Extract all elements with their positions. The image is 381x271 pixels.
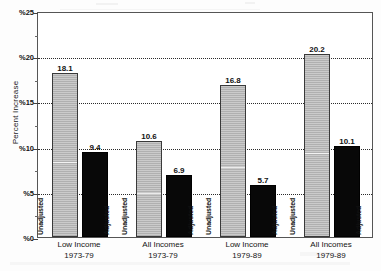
scan-artifact bbox=[96, 3, 118, 5]
bar-caption-adjusted: Adjusted bbox=[271, 206, 278, 235]
y-tick-%5 bbox=[33, 194, 38, 195]
y-tick-%25 bbox=[33, 13, 38, 14]
bar-caption-unadjusted: Unadjusted bbox=[289, 198, 296, 235]
x-axis-group-label-1: All Incomes1973-79 bbox=[142, 240, 183, 261]
bar-caption-unadjusted: Unadjusted bbox=[37, 198, 44, 235]
bar-value-label: 16.8 bbox=[225, 76, 241, 85]
bar-value-label: 9.4 bbox=[89, 143, 100, 152]
x-axis-group-label-0: Low Income1973-79 bbox=[57, 240, 100, 261]
x-axis-group-label-3: All Incomes1979-89 bbox=[310, 240, 351, 261]
x-axis-group-label-2: Low Income1979-89 bbox=[225, 240, 268, 261]
y-tick-label-%10: %10 bbox=[4, 143, 34, 152]
y-tick-label-%5: %5 bbox=[4, 188, 34, 197]
bar-caption-adjusted: Adjusted bbox=[355, 206, 362, 235]
x-label-line2: 1979-89 bbox=[225, 251, 268, 262]
bar-unadjusted-group-3 bbox=[304, 54, 330, 237]
bar-value-label: 6.9 bbox=[173, 166, 184, 175]
bar-caption-unadjusted: Unadjusted bbox=[121, 198, 128, 235]
bar-value-label: 5.7 bbox=[257, 176, 268, 185]
bar-value-label: 20.2 bbox=[309, 45, 325, 54]
bar-value-label: 18.1 bbox=[57, 64, 73, 73]
bar-caption-unadjusted: Unadjusted bbox=[205, 198, 212, 235]
y-axis-tick-labels: %0%5%10%15%20%25 bbox=[2, 12, 34, 238]
y-tick-label-%0: %0 bbox=[4, 234, 34, 243]
bar-caption-adjusted: Adjusted bbox=[103, 206, 110, 235]
bar-unadjusted-group-2 bbox=[220, 85, 246, 237]
x-axis-group-labels: Low Income1973-79All Incomes1973-79Low I… bbox=[37, 240, 373, 268]
x-label-line2: 1973-79 bbox=[57, 251, 100, 262]
y-tick-label-%20: %20 bbox=[4, 53, 34, 62]
x-label-line1: All Incomes bbox=[310, 240, 351, 249]
scan-artifact bbox=[60, 9, 260, 10]
y-minor-tick bbox=[35, 81, 38, 82]
y-tick-label-%15: %15 bbox=[4, 98, 34, 107]
x-label-line1: All Incomes bbox=[142, 240, 183, 249]
scan-artifact bbox=[245, 2, 255, 4]
x-label-line1: Low Income bbox=[57, 240, 100, 249]
y-minor-tick bbox=[35, 126, 38, 127]
y-tick-%20 bbox=[33, 58, 38, 59]
bar-caption-adjusted: Adjusted bbox=[187, 206, 194, 235]
x-label-line1: Low Income bbox=[225, 240, 268, 249]
x-label-line2: 1979-89 bbox=[310, 251, 351, 262]
y-minor-tick bbox=[35, 171, 38, 172]
bar-unadjusted-group-1 bbox=[136, 141, 162, 237]
y-tick-%15 bbox=[33, 103, 38, 104]
bar-chart: Percent Increase %0%5%10%15%20%25 18.1Un… bbox=[0, 0, 381, 271]
x-label-line2: 1973-79 bbox=[142, 251, 183, 262]
bar-value-label: 10.6 bbox=[141, 132, 157, 141]
plot-area: 18.1Unadjusted9.4Adjusted10.6Unadjusted6… bbox=[37, 12, 373, 238]
y-minor-tick bbox=[35, 36, 38, 37]
bar-unadjusted-group-0 bbox=[52, 73, 78, 237]
y-tick-label-%25: %25 bbox=[4, 8, 34, 17]
bar-value-label: 10.1 bbox=[339, 137, 355, 146]
y-tick-%10 bbox=[33, 149, 38, 150]
